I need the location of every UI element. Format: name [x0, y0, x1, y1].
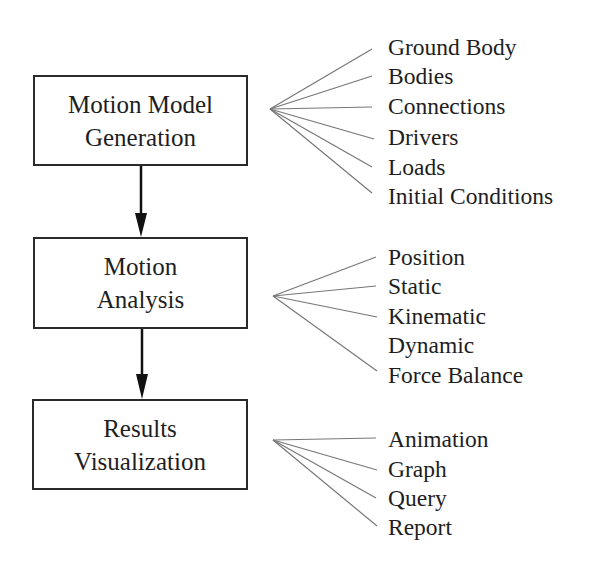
item-ground-body: Ground Body [388, 33, 517, 62]
stage-box-results-visualization: Results Visualization [32, 399, 248, 490]
fan-lines-visualization [273, 438, 377, 526]
fan-lines-analysis [273, 257, 377, 371]
item-static: Static [388, 272, 442, 301]
item-bodies: Bodies [388, 62, 453, 91]
item-kinematic: Kinematic [388, 302, 486, 331]
item-dynamic: Dynamic [388, 331, 474, 360]
stage-box-motion-model-generation: Motion Model Generation [33, 75, 248, 166]
fan-lines-generation [270, 49, 374, 193]
flow-arrow-2 [136, 328, 148, 399]
item-drivers: Drivers [388, 123, 458, 152]
item-position: Position [388, 243, 465, 272]
item-animation: Animation [388, 425, 489, 454]
item-graph: Graph [388, 455, 447, 484]
item-loads: Loads [388, 153, 445, 182]
stage-title-line2: Visualization [74, 445, 206, 478]
stage-title-line1: Motion [104, 250, 178, 283]
item-query: Query [388, 484, 447, 513]
stage-box-motion-analysis: Motion Analysis [33, 237, 248, 329]
item-report: Report [388, 513, 452, 542]
stage-title-line1: Results [103, 412, 177, 445]
stage-title-line2: Analysis [97, 283, 185, 316]
item-initial-conditions: Initial Conditions [388, 182, 553, 211]
item-connections: Connections [388, 92, 506, 121]
item-force-balance: Force Balance [388, 361, 523, 390]
stage-title-line1: Motion Model [68, 88, 213, 121]
stage-title-line2: Generation [85, 121, 196, 154]
flow-arrow-1 [135, 165, 147, 237]
